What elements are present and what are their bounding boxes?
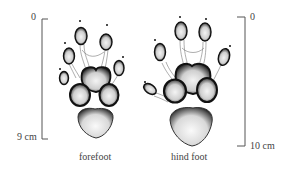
hind-foot-scale-top: 0: [250, 11, 255, 22]
forefoot-scale-bar: [42, 19, 48, 139]
forefoot-label: forefoot: [79, 151, 111, 162]
forefoot-print: [59, 20, 124, 138]
forefoot-scale-top: 0: [31, 11, 36, 22]
hind-foot-label: hind foot: [171, 151, 207, 162]
hind-foot-scale-bar: [237, 17, 245, 146]
hind-foot-print: [142, 16, 232, 146]
hind-foot-scale-bottom: 10 cm: [250, 140, 275, 151]
forefoot-scale-bottom: 9 cm: [17, 131, 37, 142]
footprint-diagram: [0, 0, 288, 170]
